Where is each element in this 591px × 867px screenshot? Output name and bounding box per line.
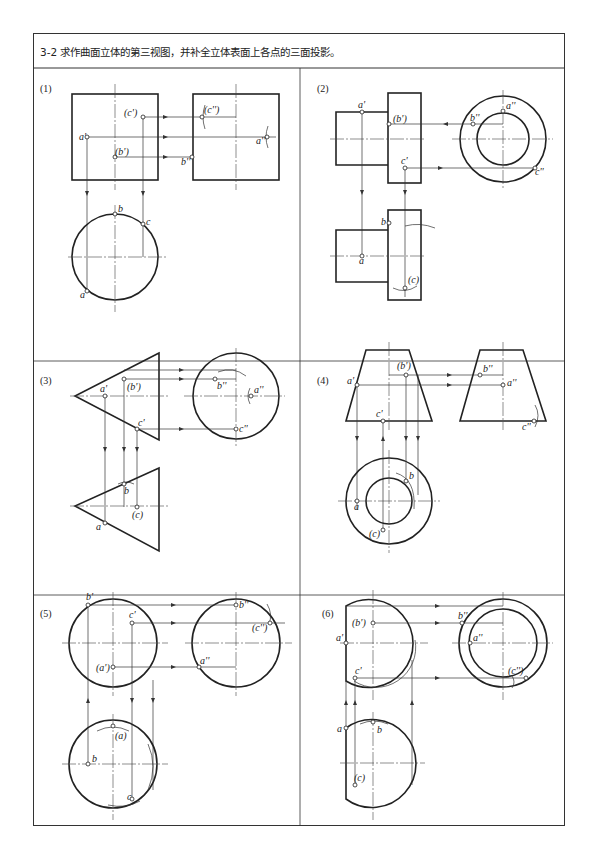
svg-text:c': c' [401, 155, 408, 166]
svg-text:b'': b'' [181, 156, 191, 167]
svg-text:b'': b'' [483, 363, 493, 374]
panel-label: (1) [40, 83, 52, 95]
panel-6: (6) (b') a' c' b'' a'' (c' [322, 590, 553, 820]
svg-text:(c): (c) [369, 528, 381, 540]
svg-text:c: c [127, 791, 132, 802]
svg-text:b': b' [86, 591, 94, 602]
svg-text:a': a' [336, 632, 344, 643]
svg-text:b'': b'' [217, 380, 227, 391]
panel-label: (2) [317, 83, 329, 95]
panel-2: (2) a' (b') c' a'' b [317, 83, 553, 300]
svg-text:(c): (c) [408, 274, 420, 286]
panel-5: (5) b' c' (a') b'' (c'') a [40, 591, 292, 820]
svg-text:(a): (a) [115, 730, 127, 742]
svg-text:a: a [359, 255, 364, 266]
svg-text:a'': a'' [200, 655, 210, 666]
panel-4: (4) a' (b') c' a'' b [317, 342, 546, 553]
svg-text:a'': a'' [507, 377, 517, 388]
svg-text:c'': c'' [522, 421, 532, 432]
svg-text:b: b [409, 470, 414, 481]
svg-text:b: b [118, 203, 123, 214]
panel-label: (4) [317, 375, 329, 387]
svg-text:(b'): (b') [127, 381, 141, 393]
svg-text:a: a [337, 723, 342, 734]
svg-text:a': a' [358, 99, 366, 110]
svg-text:b: b [381, 216, 386, 227]
svg-text:b'': b'' [458, 610, 468, 621]
svg-text:b'': b'' [239, 599, 249, 610]
svg-text:a'': a'' [254, 384, 264, 395]
svg-text:(b'): (b') [397, 360, 411, 372]
svg-text:(c''): (c'') [204, 104, 220, 116]
drawing-canvas: (1) a' (b') (c') a'' [0, 0, 591, 867]
svg-text:(a'): (a') [96, 662, 110, 674]
svg-text:a: a [354, 501, 359, 512]
svg-text:b'': b'' [470, 112, 480, 123]
svg-text:(c''): (c'') [508, 665, 524, 677]
svg-text:a'': a'' [506, 100, 516, 111]
svg-text:a: a [80, 289, 85, 300]
svg-text:a'': a'' [473, 632, 483, 643]
panel-label: (3) [40, 375, 52, 387]
svg-text:(b'): (b') [393, 113, 407, 125]
panel-1: (1) a' (b') (c') a'' [40, 83, 279, 312]
svg-text:b: b [124, 485, 129, 496]
svg-text:a'': a'' [256, 135, 266, 146]
svg-text:c': c' [376, 408, 383, 419]
svg-text:(b'): (b') [115, 146, 129, 158]
svg-text:b: b [377, 724, 382, 735]
svg-text:(c''): (c'') [252, 622, 268, 634]
svg-text:a': a' [79, 131, 87, 142]
svg-text:a': a' [347, 375, 355, 386]
svg-text:c: c [146, 216, 151, 227]
svg-text:c'': c'' [535, 166, 545, 177]
svg-text:(c): (c) [132, 509, 144, 521]
panel-3: (3) a' (b') c' a'' b [40, 348, 285, 551]
svg-text:c'': c'' [239, 423, 249, 434]
panel-label: (6) [322, 608, 334, 620]
svg-text:c': c' [355, 665, 362, 676]
svg-text:(b'): (b') [352, 617, 366, 629]
svg-text:b: b [92, 753, 97, 764]
svg-text:a: a [96, 521, 101, 532]
svg-text:(c): (c) [354, 772, 366, 784]
svg-text:a': a' [100, 383, 108, 394]
panel-label: (5) [40, 608, 52, 620]
svg-text:c': c' [129, 609, 136, 620]
svg-text:(c'): (c') [124, 107, 138, 119]
svg-text:c': c' [138, 417, 145, 428]
